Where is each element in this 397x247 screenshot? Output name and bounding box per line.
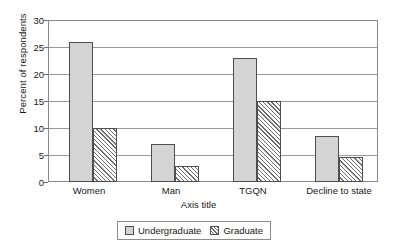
y-tick-mark-0 bbox=[44, 182, 48, 183]
bar-group-tgqn bbox=[212, 20, 294, 182]
x-tick-label-decline-to-state: Decline to state bbox=[294, 185, 384, 196]
bar-women-graduate bbox=[93, 128, 117, 182]
x-tick-label-women: Women bbox=[48, 185, 130, 196]
legend-swatch-undergraduate-icon bbox=[125, 226, 134, 235]
bar-tgqn-graduate bbox=[257, 101, 281, 182]
legend-item-undergraduate: Undergraduate bbox=[125, 225, 201, 236]
bar-group-man bbox=[130, 20, 212, 182]
bar-group-decline-to-state bbox=[294, 20, 376, 182]
bar-tgqn-undergraduate bbox=[233, 58, 257, 182]
y-tick-label-5: 5 bbox=[22, 151, 44, 161]
bar-decline-to-state-graduate bbox=[339, 157, 363, 182]
y-tick-label-30: 30 bbox=[22, 16, 44, 26]
bar-man-undergraduate bbox=[151, 144, 175, 182]
y-tick-label-15: 15 bbox=[22, 97, 44, 107]
legend-item-graduate: Graduate bbox=[210, 225, 263, 236]
bar-decline-to-state-undergraduate bbox=[315, 136, 339, 182]
chart-legend: Undergraduate Graduate bbox=[117, 221, 271, 240]
x-axis-title: Axis title bbox=[0, 199, 397, 210]
legend-swatch-graduate-icon bbox=[210, 226, 219, 235]
legend-label-graduate: Graduate bbox=[223, 225, 263, 236]
y-tick-label-25: 25 bbox=[22, 43, 44, 53]
bar-group-women bbox=[48, 20, 130, 182]
x-tick-label-tgqn: TGQN bbox=[212, 185, 294, 196]
y-tick-label-0: 0 bbox=[22, 178, 44, 188]
bar-women-undergraduate bbox=[69, 42, 93, 182]
bar-man-graduate bbox=[175, 166, 199, 182]
y-tick-label-10: 10 bbox=[22, 124, 44, 134]
x-tick-label-man: Man bbox=[130, 185, 212, 196]
legend-label-undergraduate: Undergraduate bbox=[138, 225, 201, 236]
bars-layer bbox=[48, 20, 378, 182]
bar-chart: Percent of respondents 30 25 20 15 10 5 … bbox=[0, 0, 397, 247]
y-tick-label-20: 20 bbox=[22, 70, 44, 80]
